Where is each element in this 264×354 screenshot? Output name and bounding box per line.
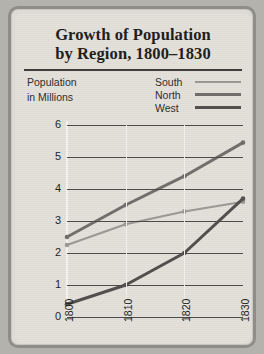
y-axis-tick-6: 6 (37, 118, 61, 130)
legend-label: North (155, 89, 195, 101)
x-axis-tick-1810: 1810 (122, 299, 134, 322)
axis-caption-line-2: in Millions (27, 90, 77, 105)
title-line-1: Growth of Population (25, 25, 241, 44)
title-divider (24, 69, 242, 71)
data-point-north-1800 (65, 235, 70, 240)
y-axis-tick-5: 5 (37, 150, 61, 162)
gridline-y-6 (67, 125, 243, 126)
page-title: Growth of Population by Region, 1800–183… (25, 25, 241, 63)
gridline-y-0 (67, 317, 243, 318)
gridline-y-2 (67, 253, 243, 254)
data-point-south-1800 (65, 243, 70, 248)
gridline-x-1810 (126, 125, 127, 317)
gridline-y-1 (67, 285, 243, 286)
axis-caption-line-1: Population (27, 75, 77, 90)
screenshot-frame: Growth of Population by Region, 1800–183… (0, 0, 264, 354)
legend-item-north: North (155, 88, 241, 101)
y-axis-tick-4: 4 (37, 182, 61, 194)
x-axis-tick-1830: 1830 (239, 299, 251, 322)
gridline-y-3 (67, 221, 243, 222)
legend-item-west: West (155, 101, 241, 114)
plot-area (67, 125, 243, 317)
data-point-west-1830 (241, 196, 246, 201)
y-axis-tick-2: 2 (37, 246, 61, 258)
y-axis-tick-0: 0 (37, 310, 61, 322)
legend-swatch-south-icon (195, 81, 241, 83)
x-axis-tick-1800: 1800 (63, 299, 75, 322)
chart-card: Growth of Population by Region, 1800–183… (8, 6, 256, 348)
y-axis-tick-1: 1 (37, 278, 61, 290)
gridline-y-4 (67, 189, 243, 190)
legend-label: West (155, 102, 195, 114)
legend-item-south: South (155, 75, 241, 88)
legend-swatch-north-icon (195, 93, 241, 96)
y-axis-tick-3: 3 (37, 214, 61, 226)
legend-swatch-west-icon (195, 106, 241, 109)
chart-legend: SouthNorthWest (155, 75, 241, 114)
legend-label: South (155, 76, 195, 88)
gridline-x-1820 (184, 125, 185, 317)
series-line-west (67, 199, 243, 305)
x-axis-tick-1820: 1820 (180, 299, 192, 322)
gridline-y-5 (67, 157, 243, 158)
data-point-north-1830 (241, 140, 246, 145)
chart-card-inner: Growth of Population by Region, 1800–183… (15, 13, 251, 343)
axis-caption: Population in Millions (27, 75, 77, 105)
title-line-2: by Region, 1800–1830 (25, 44, 241, 63)
